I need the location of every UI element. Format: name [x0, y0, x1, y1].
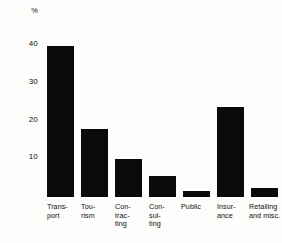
bar-transport — [47, 46, 74, 197]
bar-label-consulting: Con- sul- ting — [149, 203, 179, 229]
bar-label-contracting: Con- trac- ting — [115, 203, 145, 229]
bar-label-insurance: Insur- ance — [217, 203, 249, 220]
y-tick-label-10: 10 — [0, 153, 38, 161]
bar-retailing-and-misc — [251, 188, 278, 197]
y-tick-label-30: 30 — [0, 78, 38, 86]
y-axis-unit-label: % — [0, 6, 38, 15]
y-axis: % 40 30 20 10 — [0, 0, 44, 243]
y-tick-label-20: 20 — [0, 116, 38, 124]
bar-insurance — [217, 107, 244, 198]
bar-public — [183, 191, 210, 197]
bar-consulting — [149, 176, 176, 197]
bar-label-tourism: Tou- rism — [81, 203, 111, 220]
bar-label-public: Public — [181, 203, 213, 212]
y-tick-label-40: 40 — [0, 40, 38, 48]
plot-area: Trans- port Tou- rism Con- trac- ting Co… — [44, 0, 282, 243]
bar-label-transport: Trans- port — [47, 203, 77, 220]
bar-chart-figure: % 40 30 20 10 Trans- port Tou- rism Con-… — [0, 0, 282, 243]
bar-label-retailing-and-misc: Retailing and misc. — [249, 203, 282, 220]
bar-tourism — [81, 129, 108, 197]
bar-contracting — [115, 159, 142, 197]
